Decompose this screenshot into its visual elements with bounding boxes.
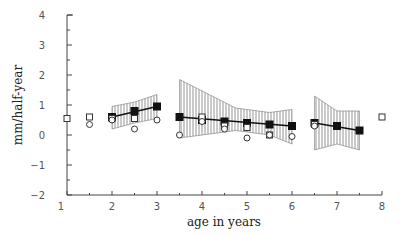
filled-square-marker [131, 107, 139, 115]
open-circle-marker [109, 117, 115, 123]
x-tick-label: 8 [379, 201, 385, 212]
open-circle-marker [132, 126, 138, 132]
open-square-marker [244, 125, 250, 131]
filled-square-marker [153, 103, 161, 111]
growth-velocity-chart: −2−10123412345678 age in years mm/half-y… [0, 0, 400, 237]
open-circle-marker [244, 135, 250, 141]
y-tick-label: 0 [39, 130, 45, 141]
x-tick-label: 4 [199, 201, 205, 212]
confidence-bands [112, 80, 360, 151]
x-tick-label: 1 [58, 201, 64, 212]
open-square-marker [132, 116, 138, 122]
open-circle-marker [199, 119, 205, 125]
y-tick-label: −2 [30, 190, 45, 201]
y-axis-title: mm/half-year [11, 65, 25, 146]
x-tick-label: 2 [109, 201, 115, 212]
open-circle-marker [87, 122, 93, 128]
x-tick-label: 7 [334, 201, 340, 212]
x-tick-label: 6 [289, 201, 295, 212]
open-circle-marker [154, 117, 160, 123]
x-tick-label: 3 [154, 201, 160, 212]
filled-square-marker [333, 122, 341, 130]
open-square-marker [379, 114, 385, 120]
filled-square-marker [266, 121, 274, 129]
filled-square-marker [288, 122, 296, 130]
y-tick-label: 1 [39, 100, 45, 111]
x-axis-title: age in years [187, 215, 261, 229]
x-tick-label: 5 [244, 201, 250, 212]
open-circle-marker [289, 134, 295, 140]
y-tick-label: 3 [39, 40, 45, 51]
open-circle-marker [312, 123, 318, 129]
open-circle-marker [267, 132, 273, 138]
y-tick-label: −1 [30, 160, 45, 171]
open-square-marker [87, 114, 93, 120]
filled-square-marker [176, 113, 184, 121]
y-tick-label: 4 [39, 10, 45, 21]
confidence-band [180, 80, 293, 145]
open-square-marker [64, 116, 70, 122]
open-circle-marker [177, 132, 183, 138]
filled-square-marker [356, 127, 364, 135]
y-tick-label: 2 [39, 70, 45, 81]
open-circle-marker [222, 126, 228, 132]
